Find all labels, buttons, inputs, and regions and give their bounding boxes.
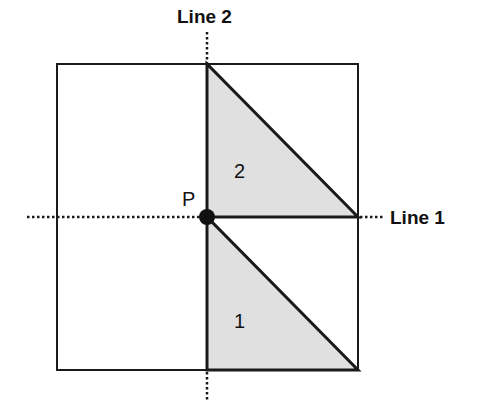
point-p-label: P (182, 188, 195, 210)
triangle-region-2 (207, 64, 358, 217)
line-1-label: Line 1 (390, 207, 445, 228)
region-1-label: 1 (234, 310, 245, 332)
line-2-label: Line 2 (177, 6, 232, 27)
region-2-label: 2 (234, 160, 245, 182)
point-p-marker (199, 209, 215, 225)
diagram-canvas: Line 2 Line 1 P 2 1 (0, 0, 478, 407)
triangle-region-1 (207, 217, 358, 370)
